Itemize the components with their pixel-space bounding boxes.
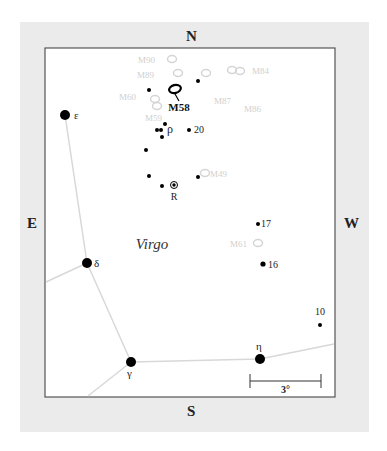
constellation-name: Virgo bbox=[136, 236, 169, 252]
faint-star bbox=[144, 148, 148, 152]
east-label: E bbox=[27, 215, 37, 232]
faint-star bbox=[318, 323, 322, 327]
bright-star bbox=[255, 354, 265, 364]
bright-star bbox=[60, 110, 70, 120]
star-label: γ bbox=[126, 367, 132, 379]
star-label: ρ bbox=[167, 122, 173, 136]
map-area bbox=[45, 48, 335, 397]
galaxy-label: M90 bbox=[138, 55, 156, 65]
galaxy-label: M86 bbox=[244, 104, 262, 114]
faint-star bbox=[160, 184, 164, 188]
star-label: 10 bbox=[315, 306, 325, 317]
star-label: δ bbox=[94, 257, 99, 269]
star-label: 17 bbox=[261, 218, 271, 229]
faint-star bbox=[260, 261, 265, 266]
faint-star bbox=[196, 79, 200, 83]
faint-star bbox=[147, 174, 151, 178]
variable-star-label: R bbox=[171, 191, 178, 202]
faint-star bbox=[187, 128, 191, 132]
galaxy-label: M61 bbox=[230, 239, 247, 249]
north-label: N bbox=[186, 28, 197, 45]
faint-star bbox=[196, 175, 200, 179]
star-label: 16 bbox=[268, 259, 278, 270]
faint-star bbox=[155, 128, 159, 132]
galaxy-label: M60 bbox=[119, 92, 137, 102]
target-label: M58 bbox=[168, 101, 190, 113]
faint-star bbox=[160, 135, 164, 139]
bright-star bbox=[126, 357, 136, 367]
galaxy-label: M49 bbox=[210, 169, 228, 179]
star-label: η bbox=[256, 340, 262, 352]
faint-star bbox=[256, 222, 260, 226]
bright-star bbox=[82, 258, 92, 268]
star-label: 20 bbox=[194, 124, 204, 135]
star-label: ε bbox=[74, 109, 79, 121]
galaxy-label: M84 bbox=[252, 66, 270, 76]
galaxy-label: M87 bbox=[214, 96, 232, 106]
svg-text:3°: 3° bbox=[281, 384, 290, 395]
west-label: W bbox=[344, 215, 359, 232]
galaxy-label: M89 bbox=[137, 70, 155, 80]
faint-star bbox=[147, 88, 151, 92]
galaxy-label: M59 bbox=[145, 113, 163, 123]
star-chart: M90M89M87M84M86M60M59M49M61M58εδγηρ20171… bbox=[0, 0, 387, 451]
south-label: S bbox=[187, 403, 195, 420]
faint-star bbox=[159, 128, 163, 132]
